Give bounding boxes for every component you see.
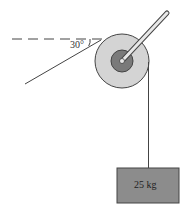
pulley-axle <box>120 59 125 64</box>
angle-label: 30° <box>70 39 84 50</box>
mass-label: 25 kg <box>134 179 157 190</box>
angled-rope <box>25 40 101 84</box>
pulley-diagram <box>0 0 189 209</box>
angle-arc <box>89 39 90 46</box>
